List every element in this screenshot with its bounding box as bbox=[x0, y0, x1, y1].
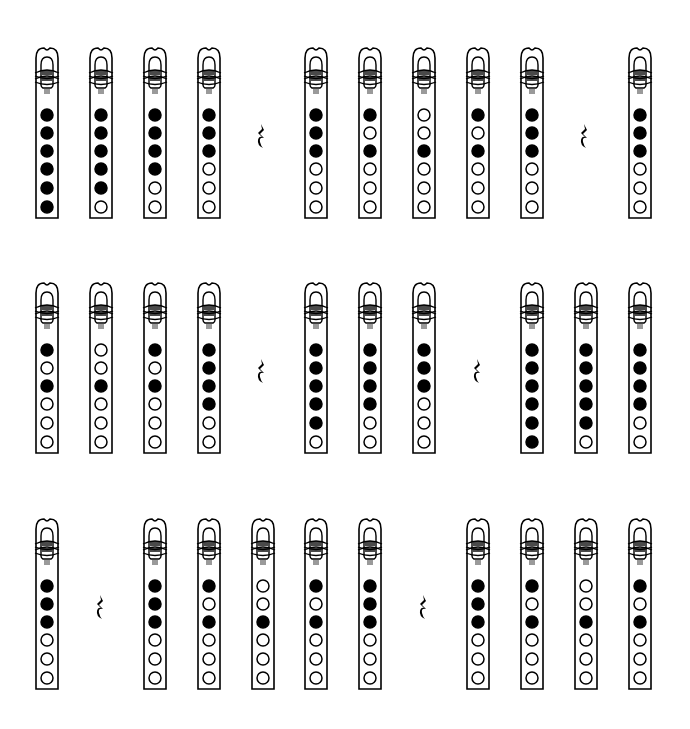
open-hole-icon bbox=[634, 417, 646, 429]
closed-hole-icon bbox=[310, 398, 322, 410]
open-hole-icon bbox=[257, 580, 269, 592]
quarter-rest-icon bbox=[93, 594, 109, 620]
open-hole-icon bbox=[310, 672, 322, 684]
flute-icon bbox=[626, 517, 654, 697]
closed-hole-icon bbox=[149, 598, 161, 610]
closed-hole-icon bbox=[41, 163, 53, 175]
open-hole-icon bbox=[418, 127, 430, 139]
closed-hole-icon bbox=[149, 616, 161, 628]
open-hole-icon bbox=[526, 163, 538, 175]
quarter-rest-icon bbox=[254, 123, 270, 149]
closed-hole-icon bbox=[310, 380, 322, 392]
open-hole-icon bbox=[149, 436, 161, 448]
closed-hole-icon bbox=[526, 398, 538, 410]
flute-fingering-diagram bbox=[141, 46, 169, 226]
flute-fingering-diagram bbox=[141, 517, 169, 697]
closed-hole-icon bbox=[310, 417, 322, 429]
closed-hole-icon bbox=[41, 344, 53, 356]
open-hole-icon bbox=[634, 634, 646, 646]
open-hole-icon bbox=[634, 182, 646, 194]
open-hole-icon bbox=[257, 634, 269, 646]
closed-hole-icon bbox=[634, 616, 646, 628]
open-hole-icon bbox=[418, 109, 430, 121]
flute-icon bbox=[410, 46, 438, 226]
open-hole-icon bbox=[41, 672, 53, 684]
open-hole-icon bbox=[472, 672, 484, 684]
open-hole-icon bbox=[310, 182, 322, 194]
open-hole-icon bbox=[364, 417, 376, 429]
closed-hole-icon bbox=[41, 127, 53, 139]
closed-hole-icon bbox=[580, 380, 592, 392]
open-hole-icon bbox=[526, 653, 538, 665]
open-hole-icon bbox=[580, 653, 592, 665]
flute-icon bbox=[33, 517, 61, 697]
closed-hole-icon bbox=[149, 344, 161, 356]
flute-icon bbox=[626, 46, 654, 226]
open-hole-icon bbox=[472, 163, 484, 175]
fingering-row-1 bbox=[0, 46, 690, 226]
open-hole-icon bbox=[41, 362, 53, 374]
flute-fingering-diagram bbox=[410, 281, 438, 461]
closed-hole-icon bbox=[41, 580, 53, 592]
open-hole-icon bbox=[364, 201, 376, 213]
closed-hole-icon bbox=[310, 344, 322, 356]
closed-hole-icon bbox=[580, 417, 592, 429]
open-hole-icon bbox=[472, 653, 484, 665]
open-hole-icon bbox=[418, 182, 430, 194]
flute-fingering-diagram bbox=[518, 46, 546, 226]
quarter-rest-icon bbox=[254, 358, 270, 384]
open-hole-icon bbox=[634, 598, 646, 610]
closed-hole-icon bbox=[203, 580, 215, 592]
closed-hole-icon bbox=[634, 127, 646, 139]
closed-hole-icon bbox=[526, 109, 538, 121]
open-hole-icon bbox=[634, 201, 646, 213]
closed-hole-icon bbox=[364, 145, 376, 157]
closed-hole-icon bbox=[203, 127, 215, 139]
closed-hole-icon bbox=[41, 145, 53, 157]
flute-icon bbox=[356, 517, 384, 697]
open-hole-icon bbox=[203, 598, 215, 610]
flute-icon bbox=[356, 46, 384, 226]
open-hole-icon bbox=[634, 163, 646, 175]
open-hole-icon bbox=[418, 398, 430, 410]
flute-icon bbox=[195, 46, 223, 226]
flute-icon bbox=[518, 517, 546, 697]
closed-hole-icon bbox=[526, 380, 538, 392]
open-hole-icon bbox=[149, 417, 161, 429]
flute-icon bbox=[464, 46, 492, 226]
open-hole-icon bbox=[526, 672, 538, 684]
flute-fingering-diagram bbox=[518, 281, 546, 461]
fingering-row-3 bbox=[0, 517, 690, 697]
closed-hole-icon bbox=[95, 380, 107, 392]
flute-fingering-diagram bbox=[572, 517, 600, 697]
open-hole-icon bbox=[310, 163, 322, 175]
flute-icon bbox=[302, 46, 330, 226]
open-hole-icon bbox=[580, 436, 592, 448]
closed-hole-icon bbox=[95, 127, 107, 139]
open-hole-icon bbox=[149, 182, 161, 194]
closed-hole-icon bbox=[310, 616, 322, 628]
flute-fingering-diagram bbox=[141, 281, 169, 461]
closed-hole-icon bbox=[526, 616, 538, 628]
closed-hole-icon bbox=[149, 127, 161, 139]
flute-icon bbox=[464, 517, 492, 697]
closed-hole-icon bbox=[634, 109, 646, 121]
closed-hole-icon bbox=[418, 344, 430, 356]
closed-hole-icon bbox=[203, 380, 215, 392]
flute-fingering-diagram bbox=[518, 517, 546, 697]
closed-hole-icon bbox=[364, 344, 376, 356]
closed-hole-icon bbox=[526, 580, 538, 592]
closed-hole-icon bbox=[634, 580, 646, 592]
open-hole-icon bbox=[41, 417, 53, 429]
closed-hole-icon bbox=[149, 580, 161, 592]
closed-hole-icon bbox=[203, 344, 215, 356]
closed-hole-icon bbox=[472, 580, 484, 592]
closed-hole-icon bbox=[95, 163, 107, 175]
flute-icon bbox=[141, 281, 169, 461]
flute-icon bbox=[356, 281, 384, 461]
closed-hole-icon bbox=[526, 362, 538, 374]
open-hole-icon bbox=[526, 201, 538, 213]
flute-icon bbox=[33, 281, 61, 461]
closed-hole-icon bbox=[149, 163, 161, 175]
closed-hole-icon bbox=[580, 362, 592, 374]
